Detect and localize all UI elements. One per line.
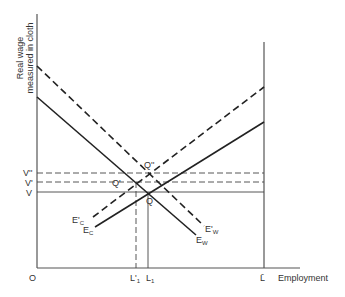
ew-prime-label-sub: W	[213, 229, 219, 235]
y-axis-label-line2: measured in cloth	[25, 22, 35, 93]
tick-l-bar: L̄	[260, 273, 265, 283]
ec-prime-curve	[93, 87, 264, 217]
point-q-label: Q	[146, 196, 153, 206]
ew-prime-label: E'W	[205, 224, 219, 235]
ew-label-sub: W	[202, 240, 208, 246]
tick-l1-prime-sub: 1	[137, 278, 141, 284]
ec-label: EC	[83, 225, 94, 236]
ec-curve	[95, 122, 264, 227]
ew-label: EW	[196, 235, 208, 246]
ew-prime-curve	[37, 66, 204, 226]
tick-v-double-prime: V''	[23, 168, 33, 178]
x-axis-label: Employment	[278, 273, 329, 283]
trade-wage-diagram: Real wage measured in cloth V'' V' V O L…	[0, 0, 345, 297]
tick-v-prime: V'	[25, 178, 33, 188]
tick-l1-sub: 1	[151, 278, 155, 284]
point-q-double-prime-label: Q''	[144, 160, 155, 170]
tick-l1-prime: L'1	[130, 273, 141, 284]
y-axis-label-line1: Real wage	[15, 37, 25, 80]
tick-v: V	[26, 188, 32, 198]
tick-l1: L1	[146, 273, 155, 284]
origin-label: O	[29, 273, 36, 283]
ec-label-sub: C	[89, 230, 94, 236]
point-q-prime-label: Q'	[112, 178, 121, 188]
